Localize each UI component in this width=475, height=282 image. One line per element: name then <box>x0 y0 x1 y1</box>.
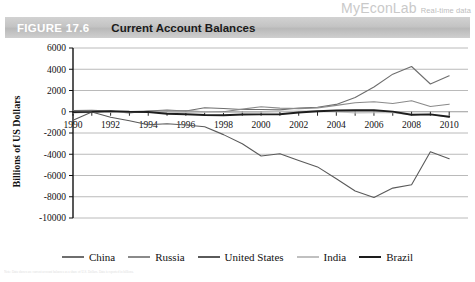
y-tick-label: -8000 <box>44 192 66 202</box>
legend-label: Brazil <box>386 251 413 263</box>
legend-label: United States <box>225 251 284 263</box>
y-tick-label: -6000 <box>44 171 66 181</box>
y-tick-label: -10000 <box>39 213 66 223</box>
y-tick-labels-group: 6000400020000-2000-4000-6000-8000-10000 <box>39 43 66 223</box>
legend-item-china[interactable]: China <box>62 251 115 263</box>
chart-container: Billions of US Dollars 6000400020000-200… <box>0 40 475 270</box>
legend-label: China <box>89 251 115 263</box>
legend-item-india[interactable]: India <box>297 251 347 263</box>
figure-caption: Note: Data shown are current account bal… <box>4 270 472 275</box>
y-tick-label: -2000 <box>44 128 66 138</box>
x-tick-label: 1998 <box>214 120 233 130</box>
realtime-data-tagline: Real-time data <box>421 6 471 15</box>
x-tick-label: 2002 <box>289 120 308 130</box>
chart-legend: ChinaRussiaUnited StatesIndiaBrazil <box>0 248 475 266</box>
x-tick-label: 2006 <box>364 120 383 130</box>
legend-item-brazil[interactable]: Brazil <box>359 251 413 263</box>
y-axis-title: Billions of US Dollars <box>11 82 22 202</box>
legend-line-swatch <box>359 256 381 258</box>
legend-label: Russia <box>155 251 184 263</box>
x-tick-label: 2004 <box>327 120 346 130</box>
myeconlab-branding: MyEconLab Real-time data <box>341 0 471 16</box>
y-tick-label: 0 <box>61 107 66 117</box>
legend-item-russia[interactable]: Russia <box>128 251 184 263</box>
x-tick-label: 2010 <box>440 120 459 130</box>
figure-number-label: FIGURE 17.6 <box>17 22 89 34</box>
x-tick-labels-group: 1990199219941996199820002002200420062008… <box>64 120 459 130</box>
x-tick-label: 1992 <box>101 120 120 130</box>
legend-line-swatch <box>198 256 220 257</box>
legend-line-swatch <box>62 256 84 257</box>
figure-title: Current Account Balances <box>111 22 255 34</box>
legend-line-swatch <box>297 256 319 257</box>
legend-label: India <box>324 251 347 263</box>
gridlines-group <box>69 48 468 218</box>
legend-item-united-states[interactable]: United States <box>198 251 284 263</box>
y-tick-label: 6000 <box>47 43 66 53</box>
x-tick-label: 2008 <box>402 120 421 130</box>
figure-header-band: FIGURE 17.6 Current Account Balances <box>5 17 470 38</box>
y-tick-label: 2000 <box>47 86 66 96</box>
data-series-group <box>73 66 449 197</box>
myeconlab-wordmark: MyEconLab <box>341 0 417 16</box>
line-chart-svg: 6000400020000-2000-4000-6000-8000-10000 … <box>0 40 475 262</box>
series-line-china <box>73 66 449 113</box>
x-tick-label: 2000 <box>252 120 271 130</box>
y-tick-label: 4000 <box>47 65 66 75</box>
y-tick-label: -4000 <box>44 150 66 160</box>
legend-line-swatch <box>128 256 150 257</box>
